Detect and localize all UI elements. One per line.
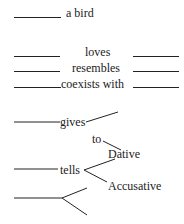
prep-to: to [92,133,101,145]
case-accusative: Accusative [108,180,161,192]
case-dative: Dative [108,148,140,160]
verb-gives: gives [60,116,85,128]
verb-tells: tells [60,164,80,176]
